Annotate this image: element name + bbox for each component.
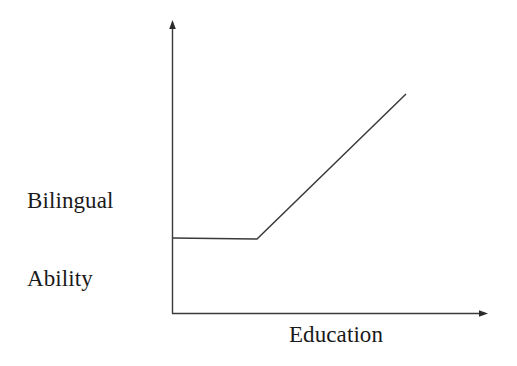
figure-container: Bilingual Ability Education	[0, 0, 517, 366]
data-line-bilingual-ability	[172, 94, 406, 239]
y-axis-label: Bilingual Ability	[27, 136, 114, 344]
y-axis-arrow-icon	[169, 20, 176, 29]
x-axis-arrow-icon	[479, 310, 488, 317]
y-axis-label-line-1: Bilingual	[27, 188, 114, 214]
y-axis-label-line-2: Ability	[27, 266, 114, 292]
x-axis-label: Education	[275, 322, 397, 348]
